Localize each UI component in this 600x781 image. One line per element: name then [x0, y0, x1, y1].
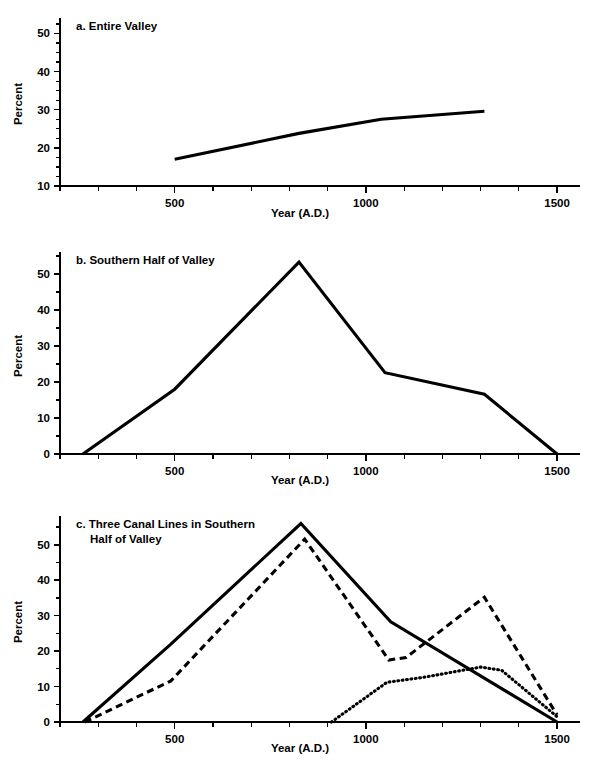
y-tick-label: 20 — [37, 645, 50, 657]
chart-panel-b: 0102030405050010001500Year (A.D.)Percent… — [0, 232, 600, 494]
y-tick-label: 20 — [37, 376, 50, 388]
x-tick-label: 1000 — [353, 465, 379, 477]
panel-title: a. Entire Valley — [76, 20, 158, 32]
series-line-solid — [83, 262, 557, 454]
x-axis-title: Year (A.D.) — [271, 474, 329, 486]
y-axis-title: Percent — [12, 601, 24, 643]
series-line-solid — [83, 524, 557, 722]
x-tick-label: 500 — [165, 465, 184, 477]
x-tick-label: 1500 — [544, 733, 570, 745]
chart-a-svg: 102030405050010001500Year (A.D.)Percenta… — [0, 0, 600, 232]
y-tick-label: 30 — [37, 104, 50, 116]
y-axis-title: Percent — [12, 83, 24, 125]
y-tick-label: 20 — [37, 142, 50, 154]
y-tick-label: 10 — [37, 681, 50, 693]
y-tick-label: 30 — [37, 340, 50, 352]
x-tick-label: 1500 — [544, 197, 570, 209]
x-tick-label: 500 — [165, 733, 184, 745]
chart-panel-c: 0102030405050010001500Year (A.D.)Percent… — [0, 494, 600, 781]
series-line-dotted — [331, 667, 557, 722]
x-tick-label: 1000 — [353, 197, 379, 209]
x-axis-title: Year (A.D.) — [271, 207, 329, 219]
series-line-solid — [175, 111, 485, 159]
axis-lines — [60, 18, 580, 186]
x-tick-label: 1000 — [353, 733, 379, 745]
axis-lines — [60, 252, 580, 454]
chart-c-svg: 0102030405050010001500Year (A.D.)Percent… — [0, 494, 600, 781]
y-tick-label: 0 — [44, 448, 50, 460]
y-tick-label: 50 — [37, 539, 50, 551]
chart-b-svg: 0102030405050010001500Year (A.D.)Percent… — [0, 232, 600, 494]
chart-panel-a: 102030405050010001500Year (A.D.)Percenta… — [0, 0, 600, 232]
y-tick-label: 40 — [37, 66, 50, 78]
y-tick-label: 50 — [37, 27, 50, 39]
panel-title: c. Three Canal Lines in Southern — [76, 518, 255, 530]
series-line-dashed — [85, 539, 557, 722]
figure-root: 102030405050010001500Year (A.D.)Percenta… — [0, 0, 600, 781]
y-tick-label: 0 — [44, 716, 50, 728]
y-tick-label: 30 — [37, 610, 50, 622]
y-tick-label: 40 — [37, 304, 50, 316]
y-tick-label: 40 — [37, 574, 50, 586]
y-tick-label: 10 — [37, 412, 50, 424]
y-tick-label: 10 — [37, 180, 50, 192]
x-tick-label: 1500 — [544, 465, 570, 477]
axis-lines — [60, 516, 580, 722]
panel-title: Half of Valley — [90, 533, 162, 545]
y-axis-title: Percent — [12, 335, 24, 377]
panel-title: b. Southern Half of Valley — [76, 254, 215, 266]
x-axis-title: Year (A.D.) — [271, 742, 329, 754]
x-tick-label: 500 — [165, 197, 184, 209]
y-tick-label: 50 — [37, 268, 50, 280]
